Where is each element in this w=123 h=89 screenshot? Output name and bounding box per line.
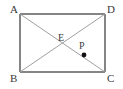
point-P-dot: [82, 53, 87, 58]
point-label-e: E: [58, 33, 64, 43]
vertex-label-d: D: [107, 4, 115, 15]
point-label-p: P: [79, 41, 85, 51]
diagonals: [20, 14, 105, 72]
vertex-label-b: B: [10, 73, 17, 84]
figure-canvas: [0, 0, 123, 89]
vertex-label-a: A: [10, 4, 18, 15]
vertex-label-c: C: [107, 73, 114, 84]
geometry-figure: A D B C E P: [0, 0, 123, 89]
